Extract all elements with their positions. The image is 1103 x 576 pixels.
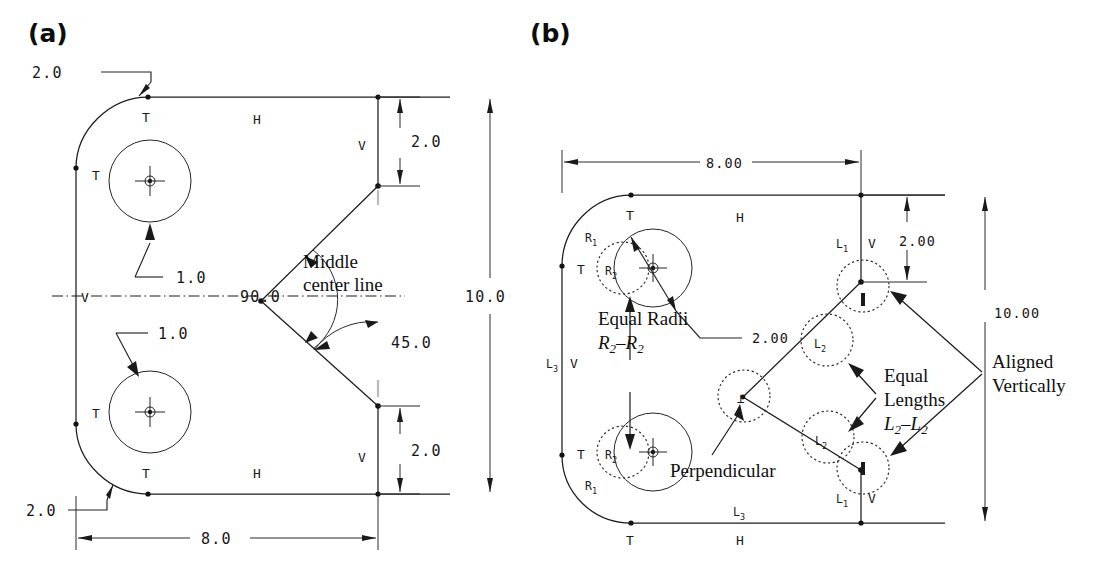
tangent-tag-top-left-b: T [626, 208, 634, 223]
tangent-tag-top-left-a: T [142, 110, 150, 125]
tangent-tag-bottom-left-a: T [142, 466, 150, 481]
length-label-chamfer-upper-b: L2 [814, 337, 826, 354]
dim-overall-height-a: 10.0 [465, 99, 506, 492]
dim-value-offset-top-right-a: 2.0 [411, 133, 442, 151]
equal-lengths-label-line3: L2–L2 [883, 413, 928, 437]
dim-offset-bottom-right-a: 2.0 [378, 406, 442, 494]
perpendicular-callout-b: Perpendicular [670, 404, 776, 481]
dim-leader-hole-lower-a: 1.0 [116, 325, 189, 377]
dim-value-fillet-bottom-left-a: 2.0 [26, 502, 57, 520]
dim-angle-chamfer-a: 45.0 [314, 320, 432, 352]
dim-offset-top-right-a: 2.0 [378, 97, 442, 186]
vertical-tag-right-lower-a: V [358, 450, 366, 465]
tangent-tag-left-upper-b: T [577, 262, 585, 277]
aligned-vertically-label-line2: Vertically [992, 375, 1066, 396]
length-bubble-chamfer-lower-b: L2 [802, 411, 854, 463]
horizontal-tag-bottom-b: H [736, 533, 744, 548]
vertical-tag-right-upper-b: V [868, 236, 876, 251]
hole-upper-a [109, 140, 191, 222]
param-label-R1-upper-b: R1 [585, 231, 597, 248]
tangent-tag-left-lower-b: T [577, 447, 585, 462]
dim-value-fillet-top-left-a: 2.0 [32, 64, 63, 82]
param-label-L3-left-b: L3 [546, 357, 558, 374]
param-label-R1-lower-b: R1 [585, 479, 597, 496]
dim-value-overall-width-a: 8.0 [201, 530, 232, 548]
panel-b-label: (b) [530, 19, 571, 48]
param-label-L1-upper-b: L1 [836, 237, 848, 254]
dim-value-angle-chamfer-a: 45.0 [391, 334, 432, 352]
aligned-vertically-label-line1: Aligned [992, 351, 1054, 372]
hole-upper-b: R2 [597, 229, 692, 311]
dim-value-offset-bottom-right-a: 2.0 [411, 442, 442, 460]
radius-label-upper-b: R2 [605, 264, 617, 281]
dim-overall-width-a: 8.0 [76, 496, 378, 550]
vertical-tag-centerline-a: V [81, 290, 89, 305]
dim-value-overall-width-b: 8.00 [706, 155, 743, 171]
param-label-L3-bottom-b: L3 [733, 505, 745, 522]
panel-b: (b) [530, 19, 1066, 548]
aligned-bubble-lower-b [837, 442, 889, 494]
tangent-tag-bottom-left-b: T [626, 533, 634, 548]
vertical-tag-right-upper-a: V [358, 138, 366, 153]
perpendicular-label: Perpendicular [670, 460, 776, 481]
dim-value-overall-height-b: 10.00 [994, 305, 1040, 321]
figure-canvas: (a) [0, 0, 1103, 576]
dim-value-offset-top-right-b: 2.00 [899, 233, 936, 249]
equal-radii-label-line2: R2–R2 [597, 332, 644, 356]
hole-lower-a [109, 371, 191, 453]
tangent-tag-left-lower-a: T [92, 406, 100, 421]
tangent-tag-left-upper-a: T [92, 168, 100, 183]
horizontal-tag-top-b: H [736, 210, 744, 225]
dim-leader-fillet-bottom-left-a: 2.0 [26, 485, 113, 520]
dim-leader-fillet-top-left-a: 2.0 [32, 64, 151, 96]
horizontal-tag-top-a: H [253, 112, 261, 127]
equal-lengths-label-line1: Equal [884, 365, 928, 386]
note-line-2: center line [303, 274, 383, 295]
perpendicular-symbol: ⊥ [737, 391, 745, 406]
dim-value-hole-radius-b: 2.00 [752, 330, 789, 346]
note-line-1: Middle [303, 251, 358, 272]
dim-value-angle-vertex-a: 90.0 [240, 288, 281, 306]
panel-a-label: (a) [28, 19, 68, 48]
param-label-L1-lower-b: L1 [836, 492, 848, 509]
radius-label-lower-b: R2 [605, 448, 617, 465]
equal-lengths-callout-b: Equal Lengths L2–L2 [848, 363, 945, 437]
dim-value-overall-height-a: 10.0 [465, 288, 506, 306]
length-bubble-chamfer-upper-b: L2 [801, 314, 853, 366]
dim-leader-hole-radius-b: 2.00 [676, 311, 789, 346]
horizontal-tag-bottom-a: H [253, 466, 261, 481]
panel-a: (a) [26, 19, 506, 550]
dim-overall-width-b: 8.00 [562, 150, 861, 193]
equal-radii-label-line1: Equal Radii [598, 308, 688, 329]
middle-center-line-note-a: Middle center line [303, 251, 383, 295]
dim-value-hole-lower-a: 1.0 [158, 325, 189, 343]
dim-value-hole-upper-a: 1.0 [176, 269, 207, 287]
equal-lengths-label-line2: Lengths [884, 389, 945, 410]
length-label-chamfer-lower-b: L2 [815, 434, 827, 451]
dim-leader-hole-upper-a: 1.0 [135, 223, 207, 287]
aligned-bubble-upper-b [837, 260, 889, 312]
vertical-tag-left-edge-b: V [570, 356, 578, 371]
equal-radii-callout-b: Equal Radii R2–R2 [597, 296, 688, 450]
vertical-tag-right-lower-b: V [868, 491, 876, 506]
